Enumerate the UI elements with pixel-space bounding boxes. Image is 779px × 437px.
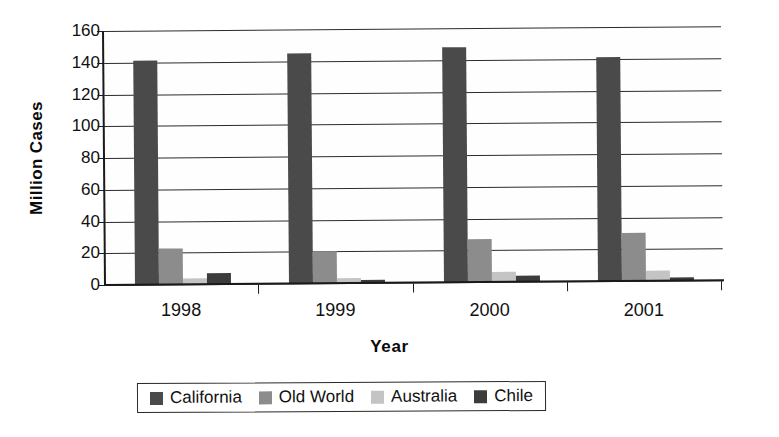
gridline [105,90,722,96]
y-tick-mark [98,190,105,191]
chart-legend: CaliforniaOld WorldAustraliaChile [137,381,546,413]
bar [596,57,622,281]
legend-item: California [150,388,242,408]
gridline [104,26,721,32]
gridline [106,217,723,223]
bar [621,233,645,281]
gridline [105,153,722,159]
bar [442,47,468,282]
y-tick-mark [99,253,106,254]
x-tick-mark [258,285,259,294]
legend-label: Australia [391,386,457,406]
plot-area [102,26,721,285]
bar [288,53,314,283]
x-tick-label: 2000 [430,300,550,321]
legend-label: Chile [494,386,533,406]
legend-swatch-icon [259,391,272,404]
x-axis-title: Year [0,337,779,357]
legend-item: Australia [371,386,457,406]
legend-swatch-icon [371,390,384,403]
bar [133,61,159,285]
legend-item: Old World [259,387,354,407]
y-tick-mark [97,31,104,32]
x-tick-mark [412,284,413,293]
legend-item: Chile [474,386,533,406]
footer-caption [4,420,424,434]
legend-swatch-icon [474,390,487,403]
x-tick-label: 2001 [584,300,704,321]
gridline [105,121,722,127]
y-tick-mark [99,221,106,222]
legend-swatch-icon [150,391,163,404]
gridlines [104,26,719,31]
bar [467,239,491,282]
x-axis-ticks [0,0,777,1]
x-tick-mark [721,281,722,290]
legend-label: California [170,388,242,408]
y-tick-mark [98,94,105,95]
bar-chart: Million Cases 160140120100806040200 1998… [0,0,779,437]
x-tick-label: 1998 [121,300,241,321]
legend-label: Old World [279,387,354,407]
gridline [104,58,721,64]
bar [313,251,337,283]
y-tick-mark [98,158,105,159]
gridline [105,185,722,191]
x-tick-label: 1999 [275,300,395,321]
y-tick-mark [97,63,104,64]
plot-frame [0,0,779,437]
y-tick-mark [98,126,105,127]
bar [159,248,183,285]
x-tick-mark [567,282,568,291]
